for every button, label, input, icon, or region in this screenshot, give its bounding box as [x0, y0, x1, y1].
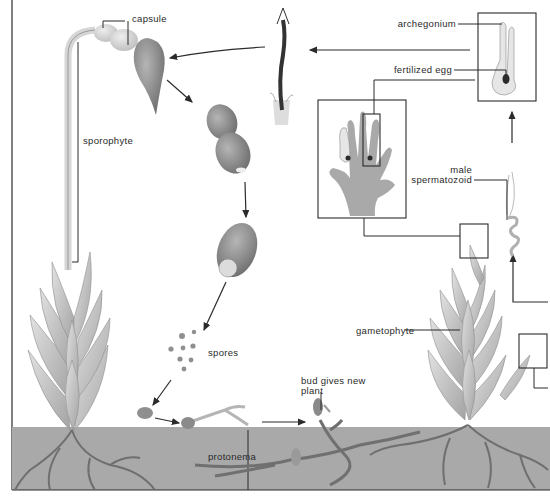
label-protonema: protonema: [208, 451, 256, 462]
soil: [12, 427, 550, 490]
spermatozoid: [506, 172, 518, 256]
young-sporophyte: [270, 8, 293, 125]
label-bud-line2: plant: [301, 385, 323, 396]
illustration: [0, 0, 550, 501]
germinating-spore: [137, 407, 153, 419]
protonema-sprout: [190, 406, 248, 425]
label-male-line2: spermatozoid: [400, 174, 472, 185]
moss-life-cycle-diagram: capsule sporophyte spores protonema bud …: [0, 0, 550, 501]
label-fertilized-egg: fertilized egg: [372, 64, 452, 75]
label-capsule: capsule: [132, 13, 167, 24]
capsule-releasing-spores: [210, 217, 265, 283]
archegonium-inset: [478, 13, 536, 101]
bud-underground: [291, 448, 301, 466]
label-archegonium: archegonium: [380, 18, 456, 29]
label-sporophyte: sporophyte: [83, 135, 133, 146]
archegonia-cluster-inset: [318, 100, 406, 218]
spores-dots: [168, 330, 196, 372]
capsule-opening: [202, 100, 256, 179]
zoom-box-apex: [460, 224, 488, 258]
right-moss-plant: [428, 245, 530, 420]
left-moss-plant: [28, 252, 110, 430]
capsule-drawing: [94, 24, 165, 115]
label-gametophyte: gametophyte: [356, 325, 414, 336]
sporophyte-stalk: [68, 30, 95, 270]
label-spores: spores: [208, 347, 238, 358]
